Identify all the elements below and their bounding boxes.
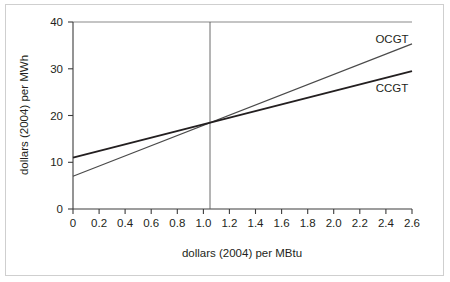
x-tick-label: 2.0 — [326, 217, 342, 229]
y-axis-tick-labels: 0 10 20 30 40 — [50, 16, 63, 215]
y-tick-label: 0 — [57, 203, 63, 215]
x-tick-label: 1.0 — [195, 217, 211, 229]
series-line-ccgt — [73, 71, 412, 158]
x-tick-label: 2.2 — [352, 217, 368, 229]
y-axis-title: dollars (2004) per MWh — [18, 55, 30, 175]
series-line-ocgt — [73, 44, 412, 176]
x-tick-label: 2.4 — [378, 217, 395, 229]
x-tick-label: 0.4 — [117, 217, 134, 229]
x-tick-label: 0.8 — [169, 217, 185, 229]
x-tick-label: 1.4 — [248, 217, 265, 229]
y-axis-ticks — [68, 22, 73, 209]
y-tick-label: 30 — [50, 63, 63, 75]
x-axis-title: dollars (2004) per MBtu — [182, 247, 302, 259]
x-axis-ticks — [73, 209, 412, 214]
y-tick-label: 10 — [50, 156, 63, 168]
series-label-ocgt: OCGT — [375, 33, 408, 45]
x-tick-label: 1.8 — [300, 217, 316, 229]
x-tick-label: 0.6 — [143, 217, 159, 229]
y-tick-label: 20 — [50, 110, 63, 122]
x-tick-label: 0 — [70, 217, 76, 229]
chart-figure: 0 10 20 30 40 0 0.2 0.4 — [0, 0, 450, 282]
x-tick-label: 1.6 — [274, 217, 290, 229]
x-axis-tick-labels: 0 0.2 0.4 0.6 0.8 1.0 1.2 1.4 1.6 1.8 2.… — [70, 217, 420, 229]
x-tick-label: 1.2 — [221, 217, 237, 229]
series-label-ccgt: CCGT — [376, 82, 409, 94]
y-tick-label: 40 — [50, 16, 63, 28]
x-tick-label: 2.6 — [404, 217, 420, 229]
line-chart: 0 10 20 30 40 0 0.2 0.4 — [0, 0, 450, 282]
x-tick-label: 0.2 — [91, 217, 107, 229]
